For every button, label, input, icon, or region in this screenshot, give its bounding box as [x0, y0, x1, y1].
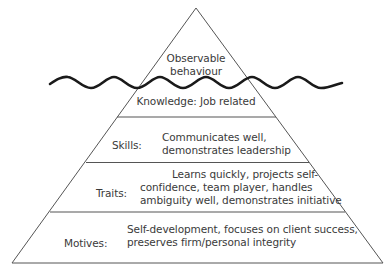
- motives-text-line2: preserves firm/personal integrity: [127, 236, 358, 249]
- traits-text-line3: ambiguity well, demonstrates initiative: [140, 194, 350, 207]
- tip-label-line2: behaviour: [150, 65, 242, 78]
- traits-text-line1: Learns quickly, projects self-: [140, 168, 350, 181]
- tip-label-line1: Observable: [150, 52, 242, 65]
- motives-text-line1: Self-development, focuses on client succ…: [127, 223, 358, 236]
- layer-motives-text: Self-development, focuses on client succ…: [127, 223, 358, 249]
- traits-text-line2: confidence, team player, handles: [140, 181, 350, 194]
- layer-skills-label: Skills:: [112, 139, 142, 152]
- skills-text-line2: demonstrates leadership: [162, 144, 291, 157]
- waterline-wave: [50, 77, 342, 88]
- layer-traits-text: Learns quickly, projects self- confidenc…: [140, 168, 350, 207]
- layer-skills-text: Communicates well, demonstrates leadersh…: [162, 131, 291, 157]
- layer-motives-label: Motives:: [64, 237, 107, 250]
- skills-text-line1: Communicates well,: [162, 131, 291, 144]
- layer-knowledge-label: Knowledge: Job related: [120, 95, 272, 108]
- tip-label: Observable behaviour: [150, 52, 242, 78]
- layer-traits-label: Traits:: [96, 187, 127, 200]
